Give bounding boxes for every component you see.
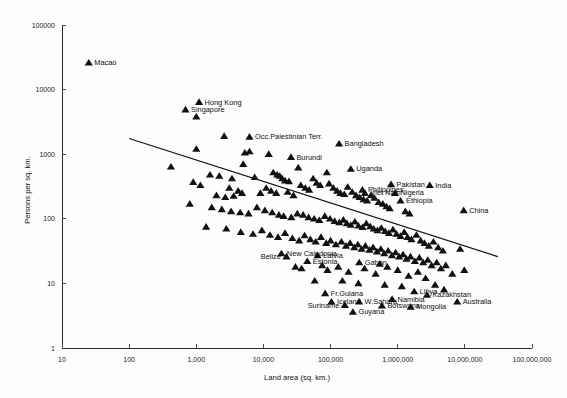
data-point	[189, 178, 197, 185]
data-point-label: Macao	[94, 58, 116, 67]
x-tick-label: 100,000,000	[513, 356, 552, 363]
data-point	[369, 244, 377, 251]
data-point	[412, 231, 420, 238]
data-point-labeled	[321, 290, 329, 297]
data-point	[294, 164, 302, 171]
y-tick-label: 10	[47, 280, 55, 287]
data-point	[381, 281, 389, 288]
data-point	[218, 206, 226, 213]
data-point	[228, 175, 236, 182]
data-point	[222, 225, 230, 232]
data-point-label: Mongolia	[416, 302, 447, 311]
data-point	[325, 180, 333, 187]
data-point	[394, 266, 402, 273]
data-point	[361, 242, 369, 249]
data-point	[167, 163, 175, 170]
data-point	[288, 234, 296, 241]
data-point	[253, 204, 261, 211]
data-point	[337, 238, 345, 245]
data-point	[212, 192, 220, 199]
data-point	[239, 160, 247, 167]
y-tick-label: 100000	[32, 22, 55, 29]
data-point	[265, 150, 273, 157]
x-tick-label: 10,000,000	[447, 356, 482, 363]
data-point	[326, 237, 334, 244]
data-point	[221, 193, 229, 200]
y-tick-label: 1	[51, 345, 55, 352]
data-point	[442, 262, 450, 269]
data-point	[274, 233, 282, 240]
data-point	[317, 233, 325, 240]
data-point	[208, 204, 216, 211]
data-point	[421, 274, 429, 281]
data-point	[415, 254, 423, 261]
data-point-labeled	[355, 259, 363, 266]
data-point	[344, 183, 352, 190]
x-axis: 101001,00010,000100,0001,000,00010,000,0…	[58, 344, 551, 363]
data-point	[354, 280, 362, 287]
data-point	[237, 228, 245, 235]
data-point-label: Australia	[463, 297, 493, 306]
data-point-labeled	[245, 133, 253, 140]
data-point-label: China	[469, 206, 489, 215]
data-point	[384, 247, 392, 254]
data-point	[202, 223, 210, 230]
data-point	[262, 184, 270, 191]
data-point	[404, 272, 412, 279]
data-point-label: Guyana	[358, 307, 385, 316]
data-point	[424, 256, 432, 263]
y-tick-label: 1000	[39, 151, 55, 158]
data-point	[225, 184, 233, 191]
data-point	[206, 171, 214, 178]
data-point	[346, 239, 354, 246]
data-point	[344, 268, 352, 275]
data-point-labeled	[335, 140, 343, 147]
data-point	[281, 229, 289, 236]
data-point-label: Gabon	[365, 258, 387, 267]
data-point-labeled	[181, 106, 189, 113]
x-tick-group: 101001,00010,000100,0001,000,00010,000,0…	[58, 344, 551, 363]
data-point	[258, 227, 266, 234]
data-point	[429, 238, 437, 245]
data-point-label: Singapore	[191, 105, 225, 114]
x-tick-label: 1,000,000	[382, 356, 413, 363]
x-tick-label: 100,000	[318, 356, 343, 363]
data-point	[196, 181, 204, 188]
scatter-chart: 110100100010000100000 101001,00010,00010…	[0, 0, 567, 398]
data-point-label: India	[435, 181, 452, 190]
data-point	[236, 209, 244, 216]
data-point-labeled	[303, 257, 311, 264]
data-point	[460, 266, 468, 273]
data-point	[297, 265, 305, 272]
y-axis: 110100100010000100000	[32, 22, 66, 352]
data-point	[311, 277, 319, 284]
data-point	[268, 209, 276, 216]
data-point-label: Burundi	[296, 153, 322, 162]
data-point-label: Ethiopia	[406, 196, 434, 205]
data-point	[192, 145, 200, 152]
y-tick-label: 10000	[36, 86, 56, 93]
data-point-labeled	[460, 207, 468, 214]
data-point-label: Bangladesh	[345, 139, 384, 148]
data-point	[287, 214, 295, 221]
data-point	[245, 148, 253, 155]
plot-canvas: 110100100010000100000 101001,00010,00010…	[0, 0, 567, 398]
data-point	[293, 210, 301, 217]
data-point-label: Belize	[261, 252, 281, 261]
data-point-labeled	[85, 59, 93, 66]
data-point-label: Occ.Palestinian Terr.	[255, 132, 323, 141]
data-point	[354, 241, 362, 248]
data-point	[448, 270, 456, 277]
data-point	[398, 283, 406, 290]
data-point	[300, 232, 308, 239]
data-point-labeled	[396, 197, 404, 204]
y-axis-title: Persons per sq. km.	[23, 156, 32, 224]
data-point	[414, 268, 422, 275]
x-tick-label: 10,000	[253, 356, 275, 363]
data-point-labeled	[349, 308, 357, 315]
data-point	[406, 253, 414, 260]
data-point	[261, 207, 269, 214]
data-point-labeled	[347, 165, 355, 172]
data-point-label: Uganda	[356, 164, 383, 173]
x-tick-label: 1,000	[188, 356, 206, 363]
